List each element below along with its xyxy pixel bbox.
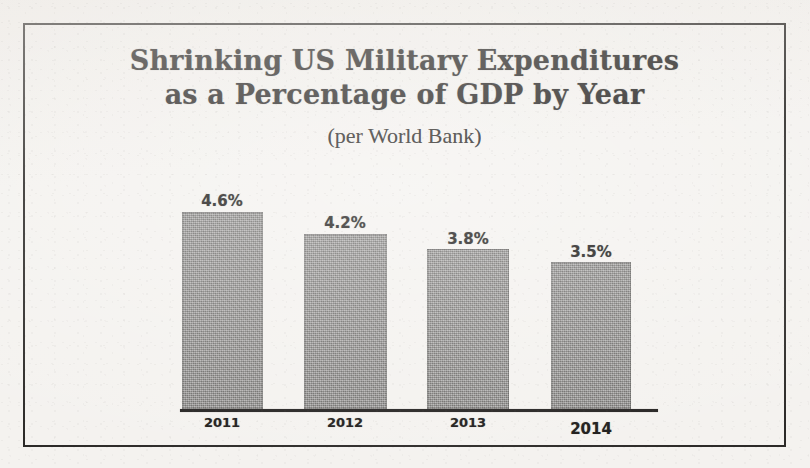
bar-2012[interactable] bbox=[304, 234, 387, 409]
bar-2014[interactable] bbox=[551, 262, 631, 409]
bar-value-label-2014: 3.5% bbox=[541, 244, 641, 260]
bar-2011[interactable] bbox=[182, 212, 263, 409]
bar-value-label-2011: 4.6% bbox=[172, 193, 272, 209]
scanned-page: Shrinking US Military Expenditures as a … bbox=[0, 0, 810, 468]
x-axis-tick-label-2013: 2013 bbox=[418, 415, 518, 430]
x-axis-tick-label-2011: 2011 bbox=[172, 415, 272, 430]
bar-chart-plot-area: 4.6% 4.2% 3.8% 3.5% 2011 2012 2013 2014 bbox=[0, 0, 810, 468]
x-axis-line bbox=[180, 409, 658, 412]
bar-value-label-2012: 4.2% bbox=[295, 215, 395, 231]
x-axis-tick-label-2012: 2012 bbox=[295, 415, 395, 430]
bar-2013[interactable] bbox=[427, 249, 509, 409]
bar-value-label-2013: 3.8% bbox=[418, 231, 518, 247]
x-axis-tick-label-2014: 2014 bbox=[541, 422, 641, 437]
